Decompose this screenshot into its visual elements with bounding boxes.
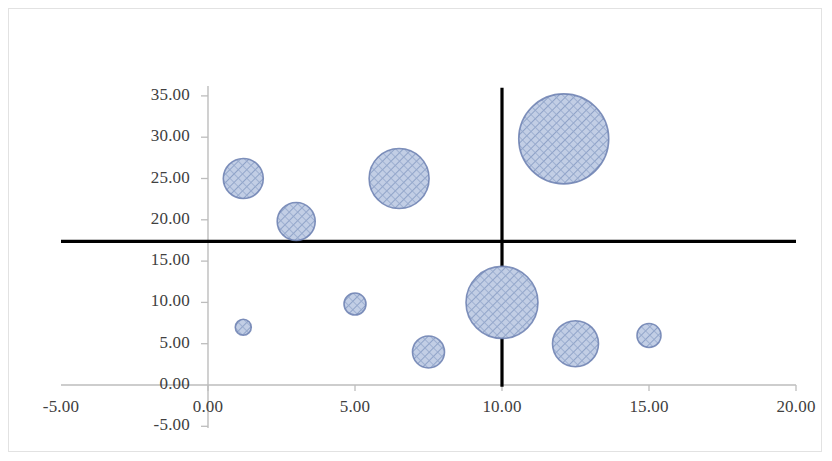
bubble-series <box>223 94 661 368</box>
plot-area: -5.000.005.0010.0015.0020.00 -5.000.005.… <box>0 0 832 461</box>
x-tick-label: 5.00 <box>310 397 400 417</box>
y-tick-label: 15.00 <box>100 250 190 270</box>
y-tick-label: 25.00 <box>100 168 190 188</box>
y-tick-label: 10.00 <box>100 291 190 311</box>
y-tick-label: 5.00 <box>100 333 190 353</box>
y-tick-label: 35.00 <box>100 85 190 105</box>
x-tick-label: 20.00 <box>751 397 832 417</box>
y-tick-label: 0.00 <box>100 374 190 394</box>
x-tick-label: 10.00 <box>457 397 547 417</box>
x-tick-label: 0.00 <box>163 397 253 417</box>
y-tick-label: 30.00 <box>100 126 190 146</box>
bubble-chart: -5.000.005.0010.0015.0020.00 -5.000.005.… <box>0 0 832 461</box>
y-tick-label: -5.00 <box>100 415 190 435</box>
y-tick-label: 20.00 <box>100 209 190 229</box>
x-tick-label: -5.00 <box>16 397 106 417</box>
x-tick-label: 15.00 <box>604 397 694 417</box>
y-axis-ticks <box>201 96 208 426</box>
